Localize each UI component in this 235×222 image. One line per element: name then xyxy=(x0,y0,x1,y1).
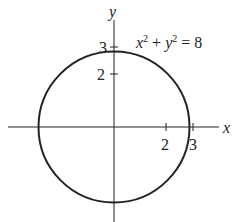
equation-label: x2 + y2 = 8 xyxy=(135,33,202,52)
circle-diagram: x y 2 3 2 3 x2 + y2 = 8 xyxy=(0,0,235,222)
y-axis-label: y xyxy=(107,3,117,21)
y-tick-label-3: 3 xyxy=(99,39,107,56)
x-tick-label-2: 2 xyxy=(161,136,169,153)
y-tick-label-2: 2 xyxy=(97,66,105,83)
x-axis-label: x xyxy=(222,119,230,136)
x-tick-label-3: 3 xyxy=(189,136,197,153)
